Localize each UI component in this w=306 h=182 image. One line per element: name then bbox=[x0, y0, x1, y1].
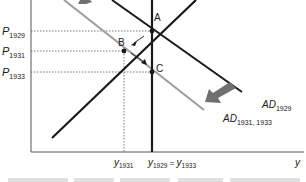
p1933-label: P1933 bbox=[2, 66, 25, 80]
point-b bbox=[122, 49, 127, 54]
point-a bbox=[150, 29, 155, 34]
y1931-label: y1931 bbox=[113, 157, 134, 169]
ad-1929-curve bbox=[112, 0, 242, 92]
point-c bbox=[150, 70, 155, 75]
ad-as-diagram: A B C P1929 P1931 P1933 AD1929 AD1931, 1… bbox=[0, 0, 306, 182]
ad-1929-label: AD1929 bbox=[261, 99, 292, 112]
point-a-label: A bbox=[154, 12, 161, 23]
x-axis-title: y bbox=[294, 157, 301, 168]
shift-arrow-bottom-icon bbox=[205, 82, 236, 103]
y1929-y1933-label: y1929 = y1933 bbox=[147, 157, 196, 169]
arrow-a-to-b-icon bbox=[131, 36, 144, 46]
cut-off-caption bbox=[8, 178, 300, 182]
point-b-label: B bbox=[118, 37, 125, 48]
ad-1931-1933-label: AD1931, 1933 bbox=[222, 113, 272, 126]
point-c-label: C bbox=[156, 63, 163, 74]
p1931-label: P1931 bbox=[2, 45, 25, 59]
p1929-label: P1929 bbox=[2, 25, 25, 39]
shift-arrow-top-icon bbox=[78, 0, 92, 4]
